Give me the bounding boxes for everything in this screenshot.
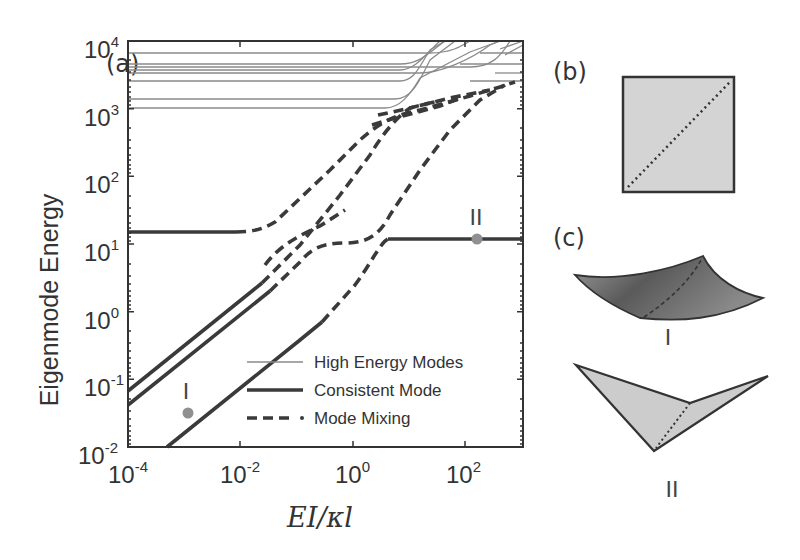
legend: High Energy Modes Consistent Mode Mode M… [247,353,463,428]
x-tick-1e-4: 10-4 [108,458,148,488]
panel-b: (b) [553,58,734,192]
y-tick-1e3: 103 [84,101,119,131]
consistent-mode-diagonal-middle [128,291,270,405]
panel-c: (c) I II [553,224,768,502]
annotation-II: II [470,205,483,230]
x-tick-1e-2: 10-2 [220,458,260,488]
panel-label-b: (b) [553,58,587,86]
x-axis-label: EI/κl [286,502,353,533]
x-tick-1e2: 102 [446,458,481,488]
svg-text:Mode Mixing: Mode Mixing [314,409,410,428]
mode-mixing-branches [236,82,515,322]
svg-text:High Energy Modes: High Energy Modes [314,353,463,372]
svg-text:Consistent Mode: Consistent Mode [314,381,442,400]
marker-I [183,408,194,419]
shape-II-label: II [666,477,679,502]
marker-II [472,234,483,245]
y-axis-label: Eigenmode Energy [35,193,63,406]
folded-shape-II [576,365,768,451]
consistent-mode-diagonal-upper [128,283,262,391]
annotation-I: I [183,379,190,404]
y-tick-1e-1: 10-1 [84,371,124,401]
plot-area: I II 104 103 102 101 100 10-1 10-2 10 [78,33,523,488]
x-tick-1e0: 100 [335,458,370,488]
figure: (a) Eigenmode Energy EI/κl [0,0,800,560]
legend-entry-mode-mixing: Mode Mixing [247,409,410,428]
x-tick-labels: 10-4 10-2 100 102 [108,458,481,488]
y-tick-labels: 104 103 102 101 100 10-1 10-2 [78,33,124,469]
shape-I-label: I [665,325,672,350]
y-tick-1e2: 102 [84,168,119,198]
legend-entry-consistent: Consistent Mode [247,381,442,400]
panel-label-c: (c) [553,224,585,252]
y-tick-1e0: 100 [84,304,119,334]
y-tick-1e1: 101 [84,236,119,266]
saddle-shape-I [575,256,763,320]
